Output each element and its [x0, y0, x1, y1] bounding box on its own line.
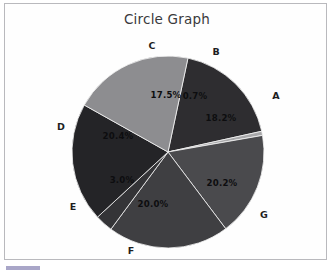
slice-percent-f: 20.0% — [138, 199, 169, 209]
slice-percent-d: 20.4% — [103, 131, 134, 141]
slice-label-e: E — [70, 201, 77, 212]
pie-chart: 18.2%A0.7%B17.5%C20.4%D3.0%E20.0%F20.2%G — [0, 0, 334, 273]
slice-label-g: G — [260, 209, 268, 220]
slice-percent-e: 3.0% — [110, 175, 135, 185]
slice-label-a: A — [272, 90, 279, 101]
slice-label-f: F — [128, 245, 135, 256]
scan-artifact — [6, 266, 40, 270]
slice-label-b: B — [212, 46, 219, 57]
slice-percent-c: 17.5% — [151, 90, 182, 100]
slice-percent-b: 0.7% — [183, 91, 208, 101]
slice-percent-a: 18.2% — [206, 113, 237, 123]
pie-svg — [0, 0, 334, 273]
slice-label-d: D — [57, 121, 65, 132]
slice-percent-g: 20.2% — [207, 178, 238, 188]
slice-label-c: C — [149, 40, 156, 51]
